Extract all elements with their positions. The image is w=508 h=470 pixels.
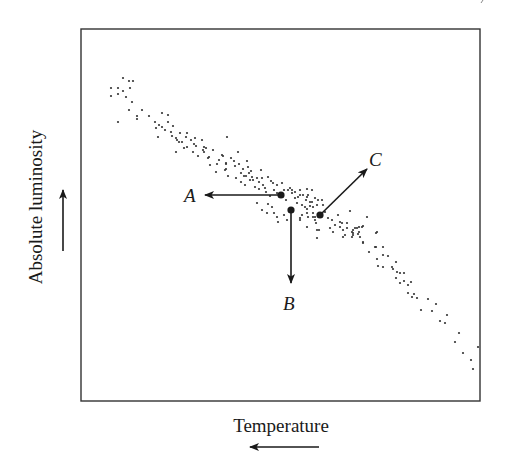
star-point: [420, 309, 422, 311]
star-point: [117, 93, 119, 95]
star-point: [296, 202, 298, 204]
star-point: [294, 197, 296, 199]
marker-dot-b: [287, 206, 294, 213]
star-point: [382, 246, 384, 248]
star-point: [382, 254, 384, 256]
star-point: [314, 219, 316, 221]
y-axis-label: Absolute luminosity: [25, 129, 46, 284]
star-point: [175, 151, 177, 153]
star-point: [128, 80, 130, 82]
star-point: [270, 180, 272, 182]
star-point: [267, 176, 269, 178]
star-point: [458, 332, 460, 334]
star-point: [225, 162, 227, 164]
star-point: [250, 170, 252, 172]
star-point: [410, 281, 412, 283]
star-point: [399, 272, 401, 274]
star-point: [411, 296, 413, 298]
star-point: [164, 129, 166, 131]
star-point: [297, 196, 299, 198]
star-point: [267, 203, 269, 205]
star-point: [403, 280, 405, 282]
star-point: [264, 187, 266, 189]
star-point: [286, 219, 288, 221]
star-point: [314, 197, 316, 199]
star-point: [273, 189, 275, 191]
star-point: [175, 137, 177, 139]
star-point: [351, 236, 353, 238]
star-point: [299, 189, 301, 191]
star-point: [291, 189, 293, 191]
star-point: [375, 232, 377, 234]
star-point: [117, 121, 119, 123]
star-point: [315, 222, 317, 224]
star-point: [242, 168, 244, 170]
star-point: [289, 187, 291, 189]
star-point: [273, 212, 275, 214]
star-point: [248, 172, 250, 174]
star-point: [366, 216, 368, 218]
star-point: [294, 191, 296, 193]
star-point: [416, 297, 418, 299]
star-point: [352, 232, 354, 234]
star-point: [154, 121, 156, 123]
star-point: [337, 214, 339, 216]
star-point: [178, 141, 180, 143]
star-point: [195, 145, 197, 147]
marker-dot-c: [316, 211, 323, 218]
plot-frame: [81, 29, 480, 401]
star-point: [435, 303, 437, 305]
star-point: [194, 137, 196, 139]
star-point: [122, 77, 124, 79]
star-point: [306, 212, 308, 214]
star-point: [262, 184, 264, 186]
star-point: [261, 177, 263, 179]
star-point: [354, 227, 356, 229]
star-point: [342, 236, 344, 238]
star-point: [212, 149, 214, 151]
star-point: [238, 163, 240, 165]
star-point: [179, 132, 181, 134]
star-point: [304, 206, 306, 208]
star-point: [251, 176, 253, 178]
star-point: [407, 284, 409, 286]
star-point: [316, 229, 318, 231]
star-point: [446, 314, 448, 316]
star-point: [209, 164, 211, 166]
star-point: [258, 181, 260, 183]
star-point: [306, 226, 308, 228]
star-point: [395, 261, 397, 263]
star-point: [258, 188, 260, 190]
x-axis-label: Temperature: [233, 415, 329, 436]
star-point: [276, 184, 278, 186]
star-point: [387, 255, 389, 257]
star-point: [316, 204, 318, 206]
star-point: [334, 224, 336, 226]
star-point: [122, 90, 124, 92]
star-point: [318, 229, 320, 231]
star-point: [216, 163, 218, 165]
star-point: [128, 109, 130, 111]
marker-b: B: [283, 206, 295, 314]
star-point: [110, 87, 112, 89]
star-point: [172, 125, 174, 127]
star-point: [225, 168, 227, 170]
star-point: [132, 80, 134, 82]
star-point: [377, 265, 379, 267]
star-point: [185, 136, 187, 138]
star-point: [249, 179, 251, 181]
star-point: [283, 189, 285, 191]
star-point: [260, 169, 262, 171]
star-point: [332, 231, 334, 233]
star-point: [362, 242, 364, 244]
star-scatter-points: [110, 77, 479, 370]
star-point: [470, 359, 472, 361]
marker-label-b: B: [283, 293, 295, 314]
star-point: [307, 194, 309, 196]
star-point: [125, 96, 127, 98]
star-point: [240, 172, 242, 174]
star-point: [462, 352, 464, 354]
star-point: [234, 165, 236, 167]
star-point: [183, 147, 185, 149]
star-point: [215, 171, 217, 173]
